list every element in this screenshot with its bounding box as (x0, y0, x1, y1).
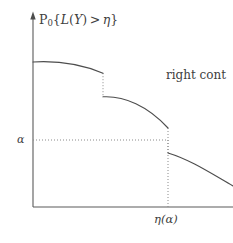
y-axis-label-arg-close: ) (82, 12, 87, 27)
y-axis-arrowhead (30, 12, 35, 20)
eta-alpha-label: η(α) (154, 214, 178, 226)
y-axis-label-function: L (61, 12, 69, 27)
curve-segment-1 (33, 62, 103, 74)
y-axis-label: P0{L(Y) > η} (39, 14, 118, 27)
alpha-tick-label: α (17, 134, 24, 145)
y-axis-label-relation: > (90, 12, 100, 27)
eta-alpha-close-paren: ) (173, 212, 178, 226)
survival-function-figure: P0{L(Y) > η} α η(α) right cont (0, 0, 233, 243)
y-axis (30, 12, 35, 208)
y-axis-label-close-brace: } (110, 12, 118, 27)
y-axis-label-open-brace: { (53, 12, 61, 27)
right-continuity-annotation: right cont (166, 69, 226, 81)
curve-segment-2 (103, 97, 168, 128)
eta-alpha-eta: η (154, 212, 161, 226)
eta-alpha-alpha: α (165, 212, 173, 226)
curve-segment-3 (168, 153, 233, 186)
plot-canvas (0, 0, 233, 243)
